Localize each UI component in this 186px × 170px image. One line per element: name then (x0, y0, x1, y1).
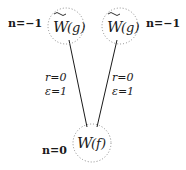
tilde-icon (54, 13, 66, 16)
edge-left-r-label: r=0 (45, 71, 66, 84)
node-bottom-label-arg: (f) (91, 136, 106, 151)
node-left-label-arg: (g) (67, 20, 85, 35)
node-right-n-label: n=−1 (146, 17, 180, 30)
diagram-canvas: W (g) n=−1 W (g) n=−1 W (f) n=0 r=0 ε=1 … (0, 0, 186, 170)
node-right: W (g) n=−1 (102, 8, 180, 44)
node-bottom: W (f) n=0 (42, 124, 111, 162)
tilde-icon (108, 13, 120, 16)
node-left: W (g) n=−1 (8, 8, 85, 44)
node-right-label-arg: (g) (121, 20, 139, 35)
edge-left-to-bottom (69, 40, 87, 127)
node-left-n-label: n=−1 (8, 17, 42, 30)
node-bottom-n-label: n=0 (42, 144, 67, 157)
edge-left-eps-label: ε=1 (45, 85, 67, 98)
edge-right-eps-label: ε=1 (112, 85, 134, 98)
edge-right-r-label: r=0 (112, 71, 133, 84)
